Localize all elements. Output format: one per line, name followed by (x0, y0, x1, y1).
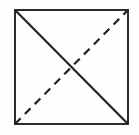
figure-canvas (0, 0, 139, 135)
geometric-figure (0, 0, 139, 135)
